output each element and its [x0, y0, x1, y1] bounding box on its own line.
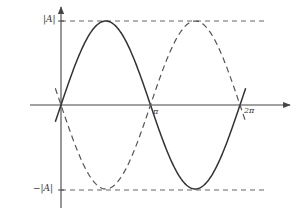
y-label-top: |A| [43, 14, 56, 24]
x-label-2pi: 2π [244, 106, 254, 115]
x-label-pi: π [153, 107, 158, 116]
sine-chart [0, 0, 305, 210]
y-label-bottom: −|A| [33, 183, 53, 193]
